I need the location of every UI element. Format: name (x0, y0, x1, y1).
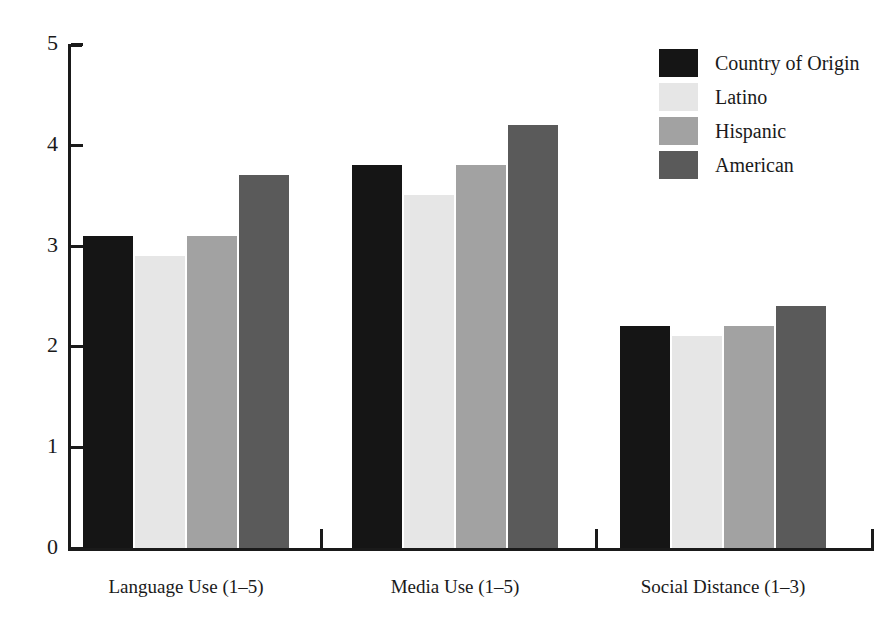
bar (135, 256, 185, 548)
x-axis-line (68, 548, 874, 551)
bar (456, 165, 506, 548)
bar (83, 236, 133, 548)
legend-swatch-american (659, 151, 698, 179)
bar (508, 125, 558, 548)
bar (776, 306, 826, 548)
y-tick-3 (71, 245, 83, 248)
y-tick-1 (71, 446, 83, 449)
legend-item[interactable]: Hispanic (659, 115, 859, 147)
y-tick-label-2: 2 (28, 334, 58, 356)
legend: Country of Origin Latino Hispanic Americ… (659, 47, 859, 183)
bar (352, 165, 402, 548)
y-tick-4 (71, 144, 83, 147)
y-tick-label-3: 3 (28, 234, 58, 256)
x-group-label-1: Language Use (1–5) (36, 576, 336, 598)
y-tick-5 (71, 43, 83, 46)
y-tick-2 (71, 345, 83, 348)
bar (404, 195, 454, 548)
legend-label-country-of-origin: Country of Origin (715, 52, 859, 74)
legend-item[interactable]: American (659, 149, 859, 181)
legend-label-american: American (715, 154, 794, 176)
bar (620, 326, 670, 548)
y-tick-label-5: 5 (28, 32, 58, 54)
legend-item[interactable]: Country of Origin (659, 47, 859, 79)
x-group-separator-tick-1 (320, 529, 323, 548)
legend-swatch-latino (659, 83, 698, 111)
bar-chart-figure: 012345 Language Use (1–5)Media Use (1–5)… (0, 0, 896, 632)
y-tick-label-1: 1 (28, 435, 58, 457)
y-tick-label-4: 4 (28, 133, 58, 155)
y-tick-label-0: 0 (28, 536, 58, 558)
legend-swatch-hispanic (659, 117, 698, 145)
y-tick-0 (71, 547, 83, 550)
legend-label-hispanic: Hispanic (715, 120, 786, 142)
legend-swatch-country-of-origin (659, 49, 698, 77)
bar (187, 236, 237, 548)
x-group-label-2: Media Use (1–5) (305, 576, 605, 598)
bar (239, 175, 289, 548)
y-axis-line (68, 44, 71, 550)
legend-label-latino: Latino (715, 86, 767, 108)
bar (724, 326, 774, 548)
x-group-label-3: Social Distance (1–3) (573, 576, 873, 598)
x-axis-right-cap (871, 529, 874, 551)
legend-item[interactable]: Latino (659, 81, 859, 113)
x-group-separator-tick-2 (595, 529, 598, 548)
bar (672, 336, 722, 548)
